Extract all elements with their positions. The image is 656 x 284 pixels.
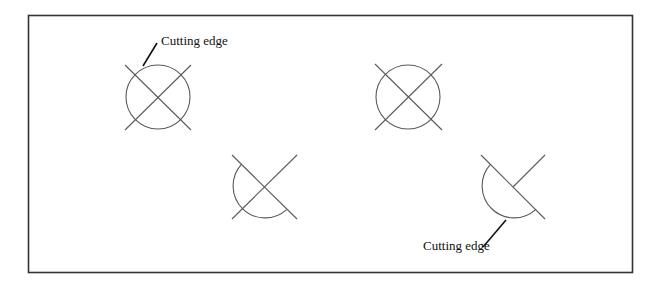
cutting-edge-label: Cutting edge	[423, 238, 490, 253]
trim-diagram: Cutting edge Cutting edge	[0, 0, 656, 284]
leader-line	[143, 43, 157, 66]
cutting-edge-label: Cutting edge	[161, 33, 228, 48]
example-2-after: Cutting edge	[423, 155, 545, 253]
example-1-before: Cutting edge	[125, 33, 228, 130]
example-1-after	[232, 155, 297, 219]
example-2-before	[375, 64, 442, 130]
diagram-frame	[29, 16, 633, 273]
trimmed-diagonal-line	[513, 155, 545, 187]
